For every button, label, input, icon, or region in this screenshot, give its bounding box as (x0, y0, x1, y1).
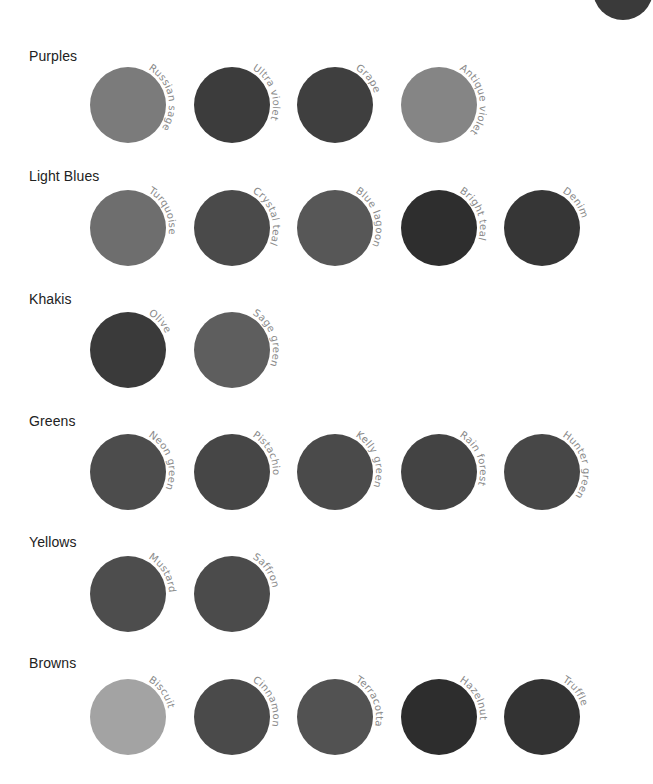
swatch-circle[interactable] (297, 67, 373, 143)
color-swatch[interactable]: Bright teal (384, 173, 494, 283)
group-title-greens: Greens (29, 413, 76, 429)
color-swatch[interactable]: Russian sage (73, 50, 183, 160)
color-swatch[interactable]: Antique violet (384, 50, 494, 160)
swatch-circle[interactable] (401, 67, 477, 143)
swatch-circle[interactable] (401, 679, 477, 755)
swatch-circle[interactable] (194, 556, 270, 632)
color-swatch[interactable]: Terracotta (280, 662, 390, 772)
swatch-circle[interactable] (297, 679, 373, 755)
color-swatch[interactable]: Neon green (73, 417, 183, 527)
swatch-circle[interactable] (401, 434, 477, 510)
group-title-khakis: Khakis (29, 291, 72, 307)
swatch-circle[interactable] (194, 190, 270, 266)
swatch-circle[interactable] (90, 67, 166, 143)
swatch-circle[interactable] (90, 312, 166, 388)
color-swatch[interactable]: Saffron (177, 539, 287, 649)
swatch-circle[interactable] (504, 190, 580, 266)
color-swatch[interactable]: Mustard (73, 539, 183, 649)
color-swatch[interactable]: Blue lagoon (280, 173, 390, 283)
group-title-browns: Browns (29, 655, 76, 671)
swatch-circle[interactable] (90, 434, 166, 510)
swatch-circle[interactable] (90, 679, 166, 755)
color-swatch[interactable]: Rain forest (384, 417, 494, 527)
swatch-circle[interactable] (194, 679, 270, 755)
color-swatch[interactable]: Turquoise (73, 173, 183, 283)
swatch-circle[interactable] (504, 434, 580, 510)
color-swatch[interactable]: Cinnamon (177, 662, 287, 772)
color-swatch[interactable]: Hazelnut (384, 662, 494, 772)
swatch-circle[interactable] (194, 67, 270, 143)
color-swatch[interactable]: Kelly green (280, 417, 390, 527)
color-swatch[interactable]: Biscuit (73, 662, 183, 772)
color-swatch[interactable]: Pistachio (177, 417, 287, 527)
corner-decoration (593, 0, 653, 20)
swatch-circle[interactable] (401, 190, 477, 266)
color-swatch[interactable]: Sage green (177, 295, 287, 405)
color-swatch[interactable]: Olive (73, 295, 183, 405)
color-swatch[interactable]: Truffle (487, 662, 597, 772)
color-swatch[interactable]: Grape (280, 50, 390, 160)
color-swatch[interactable]: Crystal teal (177, 173, 287, 283)
group-title-purples: Purples (29, 48, 77, 64)
swatch-circle[interactable] (90, 190, 166, 266)
swatch-circle[interactable] (194, 312, 270, 388)
swatch-circle[interactable] (504, 679, 580, 755)
color-swatch[interactable]: Hunter green (487, 417, 597, 527)
group-title-yellows: Yellows (29, 534, 77, 550)
swatch-circle[interactable] (194, 434, 270, 510)
color-swatch[interactable]: Denim (487, 173, 597, 283)
swatch-circle[interactable] (297, 434, 373, 510)
swatch-circle[interactable] (297, 190, 373, 266)
swatch-circle[interactable] (90, 556, 166, 632)
color-swatch[interactable]: Ultra violet (177, 50, 287, 160)
